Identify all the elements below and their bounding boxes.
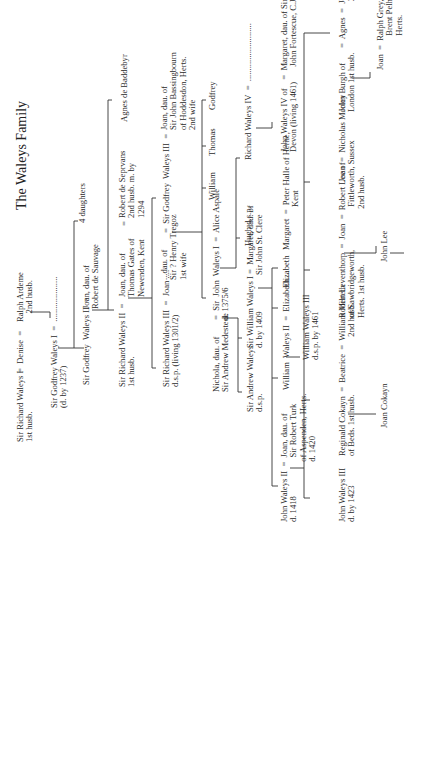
person-ralph-ardeme: Ralph Ardeme 2nd husb. (16, 272, 35, 322)
person-margaret-halle: Margaret = Peter Halle of Herne, Kent (282, 132, 301, 250)
person-richard-waleys-iv: Richard Waleys IV = ....................… (244, 23, 253, 160)
person-joan-grey: Joan = Ralph Grey, jun. of Brent Pelham,… (376, 0, 404, 70)
person-nichola-medestede: Nichola, dau. of Sir Andrew Medestede (212, 313, 231, 392)
four-daughters: 4 daughters (78, 183, 87, 223)
person-robert-de-seprvans: Robert de Seprvans 2nd husb. m. by 1294 (118, 151, 146, 218)
person-godfrey: Godfrey (208, 81, 217, 110)
person-thomas: Thomas (208, 128, 217, 156)
person-agnes-de-baddebyr: Agnes de Baddebyr (120, 54, 129, 122)
person-sir-andrew-waleys: Sir Andrew Waleys d.s.p. (246, 346, 265, 412)
person-william: William (208, 172, 217, 200)
person-john-burgh: John Burgh of = Agnes = John Padyngton. … (338, 0, 357, 112)
person-joan-gates: Joan, dau. of Thomas Gates of Newenden, … (118, 238, 146, 297)
person-john-waleys-iv: John Waleys IV of = Margaret, dau. of Si… (280, 0, 299, 152)
person-sir-richard-waleys-iii: Sir Richard Waleys III = Joan .... d.s.p… (162, 270, 181, 387)
marriage-denise: = Denise = (16, 331, 25, 373)
marriage-seprvans: = (120, 221, 129, 226)
person-joan-cokayn: Joan Cokayn (380, 383, 389, 428)
person-elizabeth: Elizabeth (282, 256, 291, 288)
person-sir-richard-waleys-i: Sir Richard Waleys I 1st husb. (16, 371, 35, 442)
person-sir-godfrey-waleys-ii: Sir Godfrey Waleys II = (82, 298, 91, 385)
person-hugh: Hugh d.s.p. (244, 206, 253, 246)
person-joan-bassingbourn: Joan, dau. of Sir John Bassingbourn of H… (160, 52, 198, 130)
person-sir-richard-waleys-ii: Sir Richard Waleys II = 1st husb. (118, 304, 137, 387)
person-william-waleys-ii: William Waleys II = Elizabeth.... (282, 271, 291, 390)
person-john-lee: John Lee (380, 231, 389, 262)
person-john-waleys-iii: John Waleys III d. by 1423 (338, 468, 357, 522)
person-joan-de-sauvage: Joan, dau. of Robert de Sauvage (82, 244, 101, 309)
person-sir-godfrey-waleys-i: Sir Godfrey Waleys I = .................… (50, 277, 69, 408)
person-sir-godfrey-waleys-iii: = Sir Godfrey Waleys III = (162, 134, 171, 233)
person-william-waleys-iii: William Waleys III d.s.p. by 1461 (302, 294, 321, 360)
family-tree-diagram: The Waleys Family (0, 0, 425, 758)
person-sir-john-waleys-i: = Sir John Waleys I = Alice Aspale d. 13… (212, 189, 231, 320)
person-john-waleys-ii: John Waleys II = Joan, dau. of d. 1418 S… (280, 394, 318, 522)
